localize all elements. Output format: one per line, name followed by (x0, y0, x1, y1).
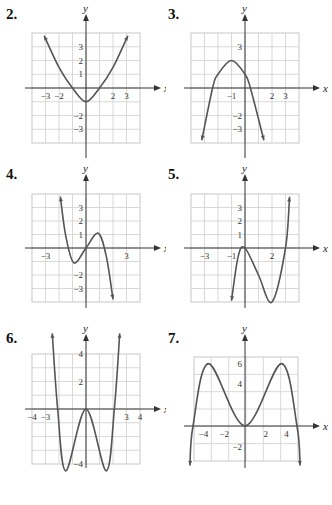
graph-6: xy−4−33442−4 (0, 320, 166, 495)
y-tick-label: −4 (73, 459, 83, 469)
x-tick-label: −1 (227, 251, 237, 261)
y-tick-label: 3 (79, 203, 84, 213)
graph-4: xy−33321−2−3 (0, 160, 166, 320)
x-tick-label: 4 (138, 412, 143, 422)
x-axis-arrow-icon (313, 245, 320, 251)
curve-arrow-icon (51, 333, 55, 338)
y-axis-arrow-icon (242, 334, 248, 341)
axes: xy−3−223321−2−3 (25, 2, 166, 158)
y-tick-label: 3 (238, 203, 243, 213)
y-axis-label: y (241, 162, 247, 174)
curve-arrow-icon (298, 461, 302, 466)
y-tick-label: −2 (73, 270, 83, 280)
graph-2: xy−3−223321−2−3 (0, 0, 166, 160)
x-axis-label: x (322, 82, 328, 94)
x-tick-label: 2 (270, 251, 275, 261)
y-axis-arrow-icon (83, 174, 89, 181)
x-tick-label: 2 (264, 429, 269, 439)
y-tick-label: 6 (238, 359, 243, 369)
y-tick-label: 1 (238, 230, 243, 240)
x-tick-label: 2 (111, 91, 116, 101)
x-tick-label: −2 (54, 91, 64, 101)
y-tick-label: −3 (73, 124, 83, 134)
y-tick-label: 1 (79, 230, 84, 240)
curve-arrow-icon (287, 197, 291, 202)
y-tick-label: −3 (232, 124, 242, 134)
function-curve (60, 197, 113, 300)
x-axis-label: x (322, 420, 328, 432)
graph-5: xy−3−12321 (166, 160, 332, 320)
x-axis-arrow-icon (154, 245, 161, 251)
y-axis-label: y (82, 2, 88, 14)
y-axis-label: y (241, 2, 247, 14)
y-tick-label: 4 (79, 349, 84, 359)
x-tick-label: −1 (227, 91, 237, 101)
x-axis-arrow-icon (154, 85, 161, 91)
x-axis-label: x (322, 242, 328, 254)
y-axis-arrow-icon (242, 174, 248, 181)
axes: xy−3−12321 (184, 162, 328, 308)
x-tick-label: 3 (124, 251, 129, 261)
x-tick-label: −3 (41, 91, 51, 101)
x-axis-arrow-icon (154, 406, 161, 412)
x-tick-label: −4 (27, 412, 37, 422)
x-tick-label: −3 (41, 251, 51, 261)
y-tick-label: 2 (238, 216, 243, 226)
graph-3: xy−1233−2−3 (166, 0, 332, 160)
x-tick-label: −2 (219, 429, 229, 439)
y-tick-label: 2 (79, 377, 84, 387)
axes: xy−1233−2−3 (184, 2, 328, 158)
curve-arrow-icon (188, 461, 192, 466)
y-axis-label: y (241, 322, 247, 334)
x-tick-label: −3 (200, 251, 210, 261)
x-tick-label: 4 (284, 429, 289, 439)
grid (194, 357, 298, 461)
y-tick-label: 3 (238, 42, 243, 52)
y-tick-label: −3 (73, 284, 83, 294)
y-tick-label: 2 (79, 56, 84, 66)
x-axis-arrow-icon (313, 85, 320, 91)
y-tick-label: −2 (73, 111, 83, 121)
x-tick-label: −4 (199, 429, 209, 439)
axes: xy−4−22464−2 (184, 322, 328, 468)
y-tick-label: 1 (79, 69, 84, 79)
y-tick-label: 4 (238, 379, 243, 389)
x-tick-label: 3 (124, 412, 129, 422)
graph-7: xy−4−22464−2 (166, 320, 332, 495)
y-tick-label: −2 (232, 442, 242, 452)
y-axis-label: y (82, 322, 88, 334)
y-axis-arrow-icon (83, 334, 89, 341)
y-axis-label: y (82, 162, 88, 174)
x-tick-label: 2 (270, 91, 275, 101)
y-tick-label: 3 (79, 42, 84, 52)
x-tick-label: 3 (283, 91, 288, 101)
x-tick-label: 3 (124, 91, 129, 101)
figure-set: 2. xy−3−223321−2−3 3. xy−1233−2−3 4. xy−… (0, 0, 332, 505)
y-tick-label: 2 (79, 216, 84, 226)
y-axis-arrow-icon (83, 14, 89, 21)
curve-arrow-icon (117, 333, 121, 338)
x-tick-label: −3 (41, 412, 51, 422)
x-axis-arrow-icon (313, 423, 320, 429)
y-tick-label: −2 (232, 111, 242, 121)
function-curve (232, 197, 290, 303)
y-axis-arrow-icon (242, 14, 248, 21)
